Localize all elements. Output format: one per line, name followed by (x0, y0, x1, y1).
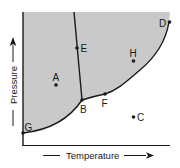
y-axis-arrow-icon (10, 37, 17, 46)
point-e-label: E (81, 43, 88, 54)
point-c: C (132, 112, 145, 123)
x-axis-title: Temperature (43, 150, 154, 161)
y-axis-label: Pressure (8, 66, 19, 104)
x-axis-arrow-icon (146, 152, 154, 159)
point-c-label: C (137, 112, 144, 123)
point-a-label: A (53, 72, 60, 83)
point-b-label: B (80, 104, 87, 115)
point-g-label: G (25, 122, 33, 133)
point-d-label: D (159, 18, 166, 29)
x-axis-label: Temperature (66, 150, 119, 161)
shaded-region (23, 12, 170, 133)
point-h-label: H (130, 48, 137, 59)
y-axis-title: Pressure (8, 37, 19, 126)
point-b: B (80, 98, 87, 115)
point-f-label: F (102, 98, 108, 109)
phase-diagram: A B C D E F G H Temperature Pressure (0, 0, 180, 168)
point-d: D (159, 18, 171, 29)
